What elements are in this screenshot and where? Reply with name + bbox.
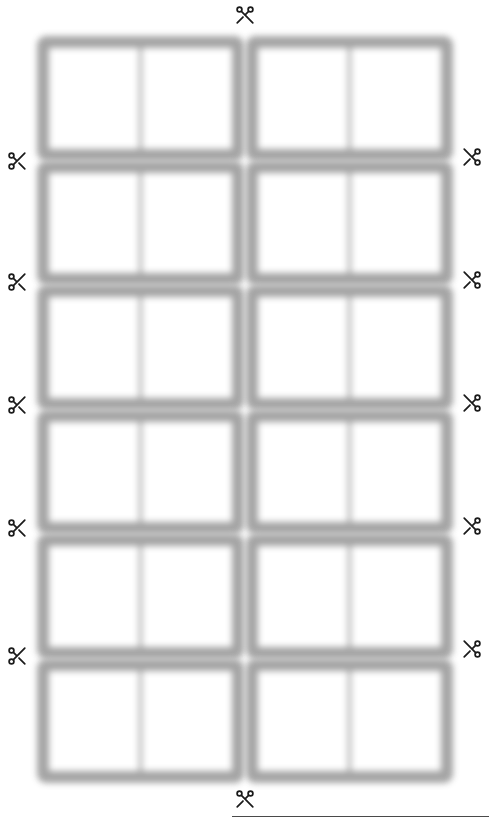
card-pair bbox=[245, 36, 454, 161]
cut-mark-left-1 bbox=[6, 150, 28, 172]
card-row bbox=[36, 659, 454, 784]
card-grid bbox=[36, 36, 454, 784]
card-cell[interactable] bbox=[350, 36, 455, 161]
card-pair bbox=[245, 285, 454, 410]
card-cell[interactable] bbox=[245, 161, 350, 286]
card-cell[interactable] bbox=[36, 161, 141, 286]
card-cell[interactable] bbox=[141, 36, 246, 161]
card-pair bbox=[36, 534, 245, 659]
card-cell[interactable] bbox=[245, 659, 350, 784]
scissors-icon bbox=[461, 146, 483, 168]
cut-mark-right-5 bbox=[461, 638, 483, 660]
card-cell[interactable] bbox=[141, 285, 246, 410]
card-row bbox=[36, 410, 454, 535]
scissors-icon bbox=[6, 394, 28, 416]
cut-mark-right-3 bbox=[461, 392, 483, 414]
card-pair bbox=[245, 410, 454, 535]
card-cell[interactable] bbox=[245, 534, 350, 659]
cut-mark-right-2 bbox=[461, 269, 483, 291]
card-cell[interactable] bbox=[350, 410, 455, 535]
card-pair bbox=[245, 534, 454, 659]
card-cell[interactable] bbox=[245, 36, 350, 161]
card-cell[interactable] bbox=[36, 285, 141, 410]
card-hit-areas bbox=[245, 534, 454, 659]
cut-mark-left-3 bbox=[6, 394, 28, 416]
card-hit-areas bbox=[36, 410, 245, 535]
card-cell[interactable] bbox=[36, 659, 141, 784]
card-hit-areas bbox=[36, 285, 245, 410]
card-pair bbox=[36, 36, 245, 161]
scissors-icon bbox=[234, 788, 256, 810]
scissors-icon bbox=[6, 645, 28, 667]
card-hit-areas bbox=[36, 659, 245, 784]
card-cell[interactable] bbox=[141, 161, 246, 286]
card-hit-areas bbox=[245, 659, 454, 784]
card-row bbox=[36, 36, 454, 161]
scissors-icon bbox=[6, 517, 28, 539]
cut-mark-right-1 bbox=[461, 146, 483, 168]
scissors-icon bbox=[461, 638, 483, 660]
card-hit-areas bbox=[245, 36, 454, 161]
card-cell[interactable] bbox=[350, 534, 455, 659]
card-hit-areas bbox=[245, 410, 454, 535]
cut-mark-bottom bbox=[234, 788, 256, 810]
card-row bbox=[36, 161, 454, 286]
card-cell[interactable] bbox=[36, 534, 141, 659]
card-hit-areas bbox=[245, 161, 454, 286]
scissors-icon bbox=[461, 515, 483, 537]
card-hit-areas bbox=[245, 285, 454, 410]
scissors-icon bbox=[234, 4, 256, 26]
card-pair bbox=[36, 410, 245, 535]
cut-mark-left-4 bbox=[6, 517, 28, 539]
card-hit-areas bbox=[36, 36, 245, 161]
bottom-divider-line bbox=[232, 816, 489, 817]
cut-mark-top bbox=[234, 4, 256, 26]
cut-mark-right-4 bbox=[461, 515, 483, 537]
card-cell[interactable] bbox=[36, 410, 141, 535]
card-cell[interactable] bbox=[141, 534, 246, 659]
card-cell[interactable] bbox=[141, 659, 246, 784]
cut-out-sheet-page bbox=[0, 0, 489, 825]
card-hit-areas bbox=[36, 161, 245, 286]
card-pair bbox=[245, 161, 454, 286]
card-cell[interactable] bbox=[350, 659, 455, 784]
card-cell[interactable] bbox=[350, 285, 455, 410]
card-cell[interactable] bbox=[245, 410, 350, 535]
cut-mark-left-5 bbox=[6, 645, 28, 667]
card-pair bbox=[245, 659, 454, 784]
card-cell[interactable] bbox=[36, 36, 141, 161]
card-pair bbox=[36, 659, 245, 784]
scissors-icon bbox=[6, 271, 28, 293]
cut-mark-left-2 bbox=[6, 271, 28, 293]
card-cell[interactable] bbox=[141, 410, 246, 535]
card-pair bbox=[36, 161, 245, 286]
scissors-icon bbox=[461, 269, 483, 291]
card-cell[interactable] bbox=[245, 285, 350, 410]
card-pair bbox=[36, 285, 245, 410]
scissors-icon bbox=[461, 392, 483, 414]
card-row bbox=[36, 285, 454, 410]
card-row bbox=[36, 534, 454, 659]
card-hit-areas bbox=[36, 534, 245, 659]
scissors-icon bbox=[6, 150, 28, 172]
card-cell[interactable] bbox=[350, 161, 455, 286]
